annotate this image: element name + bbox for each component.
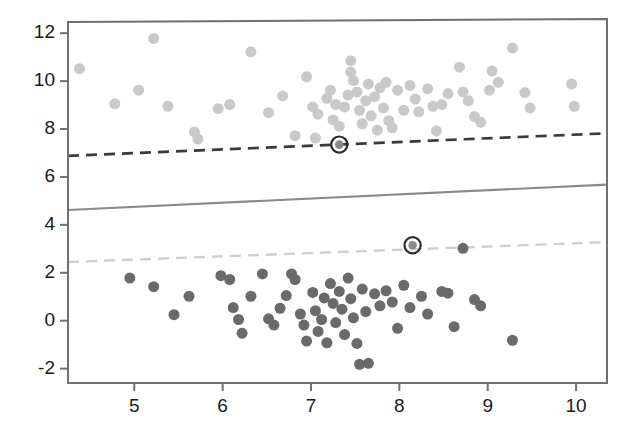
y-tick-label: 4 [44,213,55,234]
data-point [162,101,173,112]
data-point [275,303,286,314]
data-point [307,287,318,298]
data-point [233,314,244,325]
data-point [398,105,409,116]
data-point [319,292,330,303]
x-tick-label: 9 [482,395,493,416]
data-point [345,293,356,304]
data-point [525,102,536,113]
plot-background [0,0,637,435]
data-point [334,286,345,297]
data-point [148,281,159,292]
data-point [360,306,371,317]
data-point [277,90,288,101]
y-tick-label: 2 [44,261,55,282]
y-tick-label: -2 [38,357,55,378]
data-point [507,43,518,54]
data-point [301,336,312,347]
data-point [245,46,256,57]
data-point [392,323,403,334]
data-point [569,101,580,112]
data-point [313,326,324,337]
data-point [325,278,336,289]
y-tick-label: 8 [44,117,55,138]
data-point [363,78,374,89]
data-point [343,273,354,284]
data-point [442,288,453,299]
data-point [169,309,180,320]
data-point [381,285,392,296]
x-tick-label: 8 [394,395,405,416]
data-point [413,106,424,117]
data-point [336,304,347,315]
data-point [148,33,159,44]
data-point [404,80,415,91]
data-point [348,312,359,323]
data-point [316,314,327,325]
data-point [475,117,486,128]
data-point [109,98,120,109]
data-point [298,320,309,331]
data-point [422,83,433,94]
data-point [281,290,292,301]
data-point [378,102,389,113]
data-point [310,133,321,144]
data-point [449,321,460,332]
data-point [74,63,85,74]
data-point [363,358,374,369]
data-point [387,122,398,133]
data-point [519,87,530,98]
x-tick-label: 10 [566,395,587,416]
data-point [416,291,427,302]
data-point [345,55,356,66]
data-point [184,291,195,302]
y-tick-label: 10 [34,69,55,90]
data-point [442,88,453,99]
data-point [339,329,350,340]
data-point [410,94,421,105]
data-point [475,300,486,311]
data-point [422,308,433,319]
data-point [457,243,468,254]
data-point [351,338,362,349]
data-point [431,125,442,136]
data-point [228,302,239,313]
y-tick-label: 0 [44,309,55,330]
data-point [301,71,312,82]
y-tick-label: 6 [44,165,55,186]
y-tick-label: 12 [34,21,55,42]
scatter-plot-figure: 5678910 -2024681012 [0,0,637,435]
data-point [351,86,362,97]
data-point [493,77,504,88]
data-point [313,109,324,120]
x-tick-label: 6 [217,395,228,416]
data-point [348,75,359,86]
data-point [398,280,409,291]
data-point [436,99,447,110]
data-point [263,107,274,118]
data-point [325,85,336,96]
data-point [392,85,403,96]
data-point [257,268,268,279]
data-point [366,110,377,121]
data-point [354,105,365,116]
support-vector-point [335,140,344,149]
data-point [321,337,332,348]
data-point [387,297,398,308]
data-point [192,134,203,145]
data-point [487,66,498,77]
data-point [484,85,495,96]
x-tick-label: 5 [129,395,140,416]
data-point [454,62,465,73]
data-point [290,274,301,285]
data-point [463,95,474,106]
data-point [357,284,368,295]
data-point [372,125,383,136]
x-tick-label: 7 [306,395,317,416]
data-point [224,99,235,110]
data-point [566,78,577,89]
data-point [224,274,235,285]
data-point [295,308,306,319]
data-point [404,302,415,313]
data-point [369,288,380,299]
